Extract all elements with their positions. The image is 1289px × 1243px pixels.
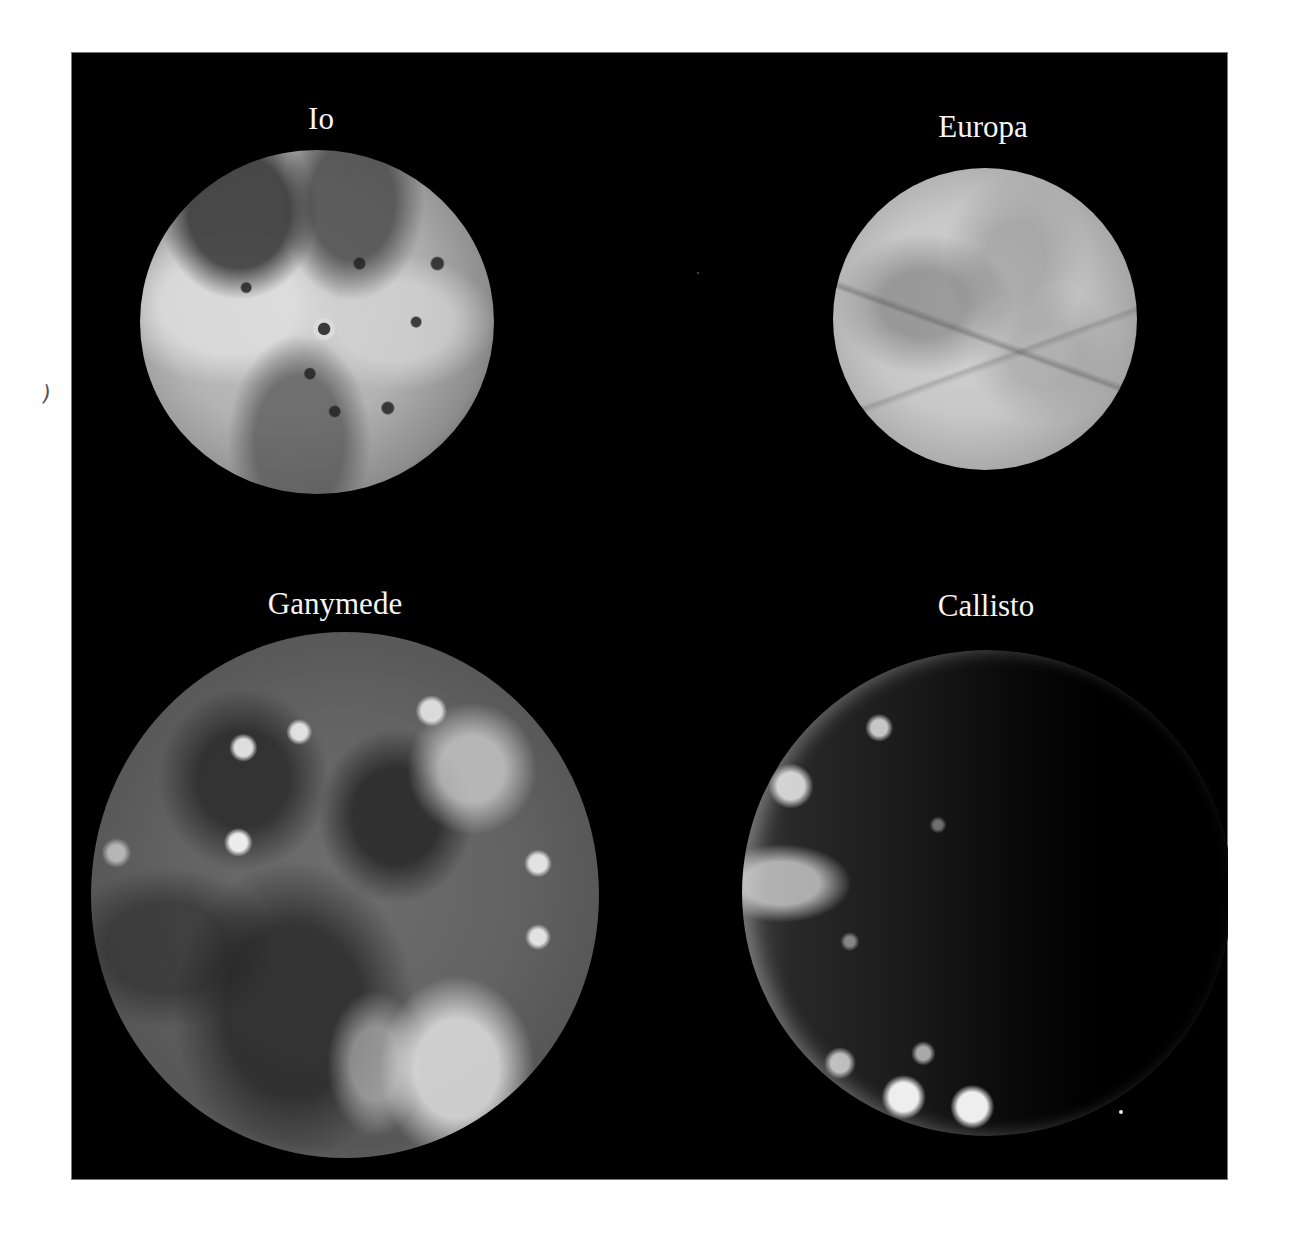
galilean-moons-plate: Io Europa Ganymede Callisto xyxy=(71,52,1228,1180)
moon-io-image xyxy=(140,150,494,494)
margin-mark: ) xyxy=(40,380,54,407)
moon-label-io: Io xyxy=(308,102,334,136)
moon-label-ganymede: Ganymede xyxy=(268,587,402,621)
star-point xyxy=(1119,1110,1123,1114)
clipped-heading xyxy=(0,0,1289,10)
moon-europa-image xyxy=(833,168,1137,470)
moon-callisto-image xyxy=(742,650,1228,1136)
moon-label-europa: Europa xyxy=(938,110,1028,144)
star-point xyxy=(697,272,699,274)
moon-ganymede-image xyxy=(91,632,599,1158)
moon-label-callisto: Callisto xyxy=(938,589,1034,623)
